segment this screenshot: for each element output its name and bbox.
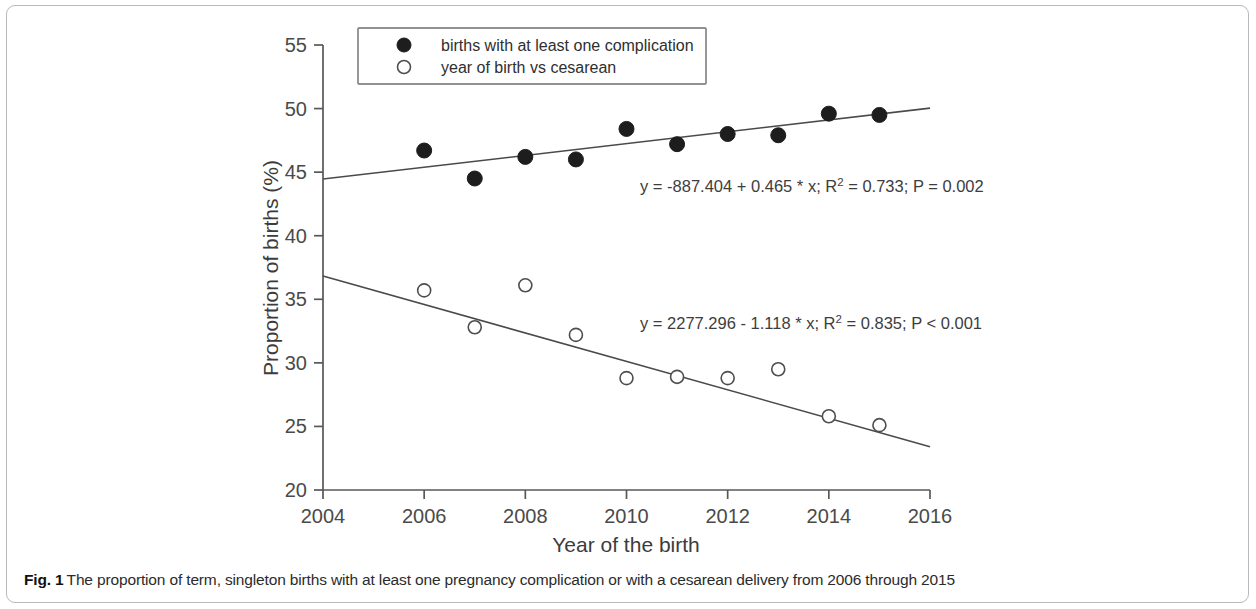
y-tick-label: 45 <box>285 161 307 183</box>
x-tick-label: 2012 <box>705 505 750 527</box>
data-point-cesarean-2011 <box>671 370 684 383</box>
complication-equation-part2: = 0.733; P = 0.002 <box>844 177 984 195</box>
trend-lines <box>323 108 930 447</box>
data-point-complication-2012 <box>720 127 735 142</box>
legend-item-label-complication: births with at least one complication <box>441 37 694 54</box>
data-point-complication-2006 <box>417 143 432 158</box>
y-tick-label: 30 <box>285 352 307 374</box>
data-point-complication-2007 <box>467 171 482 186</box>
data-point-cesarean-2014 <box>822 410 835 423</box>
x-axis-ticks: 2004200620082010201220142016 <box>301 490 953 527</box>
figure-caption: Fig. 1The proportion of term, singleton … <box>24 570 1234 589</box>
cesarean-regression-annotation: y = 2277.296 - 1.118 * x; R2 = 0.835; P … <box>640 313 982 332</box>
data-points <box>417 106 887 432</box>
x-tick-label: 2014 <box>807 505 852 527</box>
data-point-cesarean-2008 <box>519 279 532 292</box>
legend-open-circle-marker-icon <box>398 61 411 74</box>
x-axis-title: Year of the birth <box>552 533 700 556</box>
trend-line-complication <box>323 108 930 179</box>
data-point-cesarean-2009 <box>569 328 582 341</box>
x-tick-label: 2008 <box>503 505 548 527</box>
cesarean-equation-text: y = 2277.296 - 1.118 * x; R2 = 0.835; P … <box>640 313 982 332</box>
scatter-chart: 2025303540455055 20042006200820102012201… <box>0 0 1256 565</box>
x-tick-label: 2006 <box>402 505 447 527</box>
y-tick-label: 25 <box>285 415 307 437</box>
data-point-cesarean-2015 <box>873 419 886 432</box>
figure-caption-label: Fig. 1 <box>24 571 64 588</box>
x-tick-label: 2004 <box>301 505 346 527</box>
data-point-cesarean-2012 <box>721 372 734 385</box>
data-point-complication-2011 <box>670 137 685 152</box>
y-axis-title: Proportion of births (%) <box>259 160 282 376</box>
data-point-cesarean-2007 <box>468 321 481 334</box>
y-tick-label: 35 <box>285 288 307 310</box>
complication-equation-text: y = -887.404 + 0.465 * x; R2 = 0.733; P … <box>640 176 984 195</box>
y-tick-label: 55 <box>285 34 307 56</box>
data-point-complication-2010 <box>619 121 634 136</box>
trend-line-cesarean <box>323 276 930 447</box>
data-point-cesarean-2013 <box>772 363 785 376</box>
cesarean-equation-part2: = 0.835; P < 0.001 <box>842 314 982 332</box>
chart-legend: births with at least one complication ye… <box>358 28 706 84</box>
chart-axes <box>323 45 930 490</box>
complication-regression-annotation: y = -887.404 + 0.465 * x; R2 = 0.733; P … <box>640 176 984 195</box>
figure-container: 2025303540455055 20042006200820102012201… <box>0 0 1256 609</box>
data-point-complication-2013 <box>771 128 786 143</box>
data-point-cesarean-2006 <box>418 284 431 297</box>
data-point-complication-2008 <box>518 149 533 164</box>
complication-equation-part1: y = -887.404 + 0.465 * x; R <box>640 177 837 195</box>
chart-plot-area: 2025303540455055 20042006200820102012201… <box>0 0 1256 565</box>
y-axis-ticks: 2025303540455055 <box>285 34 323 501</box>
y-tick-label: 40 <box>285 225 307 247</box>
data-point-complication-2015 <box>872 107 887 122</box>
cesarean-equation-part1: y = 2277.296 - 1.118 * x; R <box>640 314 836 332</box>
y-tick-label: 20 <box>285 479 307 501</box>
data-point-complication-2014 <box>821 106 836 121</box>
data-point-cesarean-2010 <box>620 372 633 385</box>
legend-item-label-cesarean: year of birth vs cesarean <box>441 59 616 76</box>
data-point-complication-2009 <box>568 152 583 167</box>
x-tick-label: 2010 <box>604 505 649 527</box>
x-tick-label: 2016 <box>908 505 953 527</box>
legend-filled-circle-marker-icon <box>397 38 411 52</box>
figure-caption-text: The proportion of term, singleton births… <box>67 571 955 588</box>
y-tick-label: 50 <box>285 98 307 120</box>
